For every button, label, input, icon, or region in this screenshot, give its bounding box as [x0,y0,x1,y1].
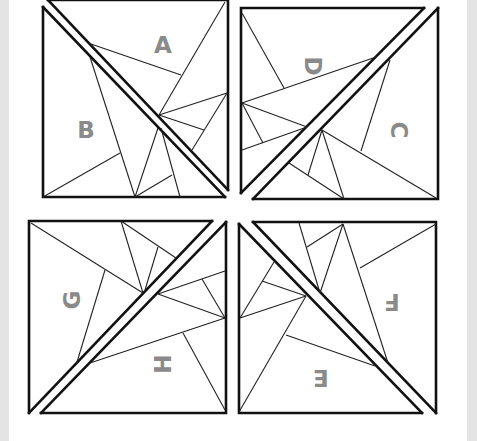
block-bottom-left [29,221,226,413]
seam-lines-d [242,13,376,150]
block-bottom-right [239,222,436,413]
piece-f-section [253,222,436,413]
seam-lines-e [239,262,375,412]
piece-d-section [241,8,424,193]
label-h: H [150,354,176,373]
piece-a-section [48,0,228,190]
paper-piecing-diagram: A B D C G H F E [0,0,477,441]
label-c: C [386,122,412,139]
seam-lines-g [31,221,176,362]
piece-h-section [41,222,226,413]
label-d: D [300,56,326,75]
piece-c-section [253,8,438,199]
label-a: A [154,32,172,58]
label-g: G [59,291,85,310]
seam-lines-c [289,60,436,199]
block-top-right [241,8,438,199]
label-b: B [77,117,95,143]
piece-labels: A B D C G H F E [59,32,412,391]
label-e: E [313,365,329,391]
piece-e-section [239,224,422,413]
block-top-left [43,0,228,197]
piece-g-section [29,221,212,413]
label-f: F [384,289,400,315]
